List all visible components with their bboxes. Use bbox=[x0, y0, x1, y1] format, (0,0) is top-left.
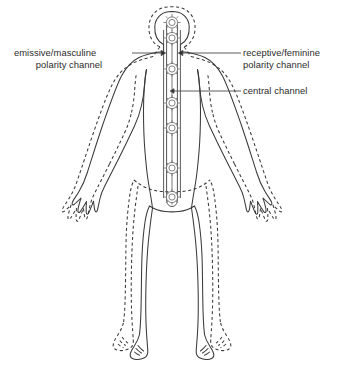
chakra-rosette-icon bbox=[163, 14, 180, 31]
central-channel bbox=[167, 18, 178, 207]
label-emissive-line2: polarity channel bbox=[14, 59, 130, 71]
chakra-rosette-icon bbox=[164, 160, 180, 176]
arrowhead-icon bbox=[161, 50, 165, 55]
label-emissive-line1: emissive/masculine bbox=[14, 47, 130, 59]
diagram-canvas: emissive/masculine polarity channel rece… bbox=[0, 0, 347, 375]
label-emissive-masculine-polarity-channel: emissive/masculine polarity channel bbox=[14, 47, 130, 70]
label-receptive-line2: polarity channel bbox=[243, 59, 320, 71]
arrowhead-icon bbox=[178, 50, 182, 55]
chakra-rosette-icon bbox=[164, 120, 180, 136]
label-receptive-feminine-polarity-channel: receptive/feminine polarity channel bbox=[243, 47, 320, 70]
label-central-channel: central channel bbox=[243, 85, 307, 97]
chakra-rosette-icon bbox=[164, 30, 180, 46]
label-receptive-line1: receptive/feminine bbox=[243, 47, 320, 59]
chakra-rosette-icon bbox=[164, 61, 180, 77]
chakra-rosette-icon bbox=[164, 95, 180, 111]
label-central-line1: central channel bbox=[243, 85, 307, 97]
arrowhead-icon bbox=[170, 89, 174, 93]
leader-lines bbox=[132, 50, 241, 93]
chakra-rosette-icon bbox=[164, 189, 180, 205]
